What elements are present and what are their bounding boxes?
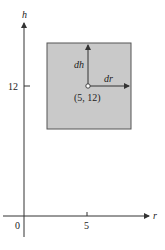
origin-label: 0	[15, 220, 20, 231]
dr-label: dr	[104, 73, 113, 84]
x-tick-label: 5	[84, 220, 89, 231]
y-tick-label: 12	[8, 81, 18, 92]
vertical-axis-label: h	[22, 9, 27, 20]
point-label: (5, 12)	[74, 92, 101, 104]
dh-label: dh	[74, 59, 84, 70]
diagram-canvas: h r 0 5 12 dh dr (5, 12)	[0, 0, 165, 250]
horizontal-axis-label: r	[153, 210, 157, 221]
point-marker	[86, 84, 90, 88]
